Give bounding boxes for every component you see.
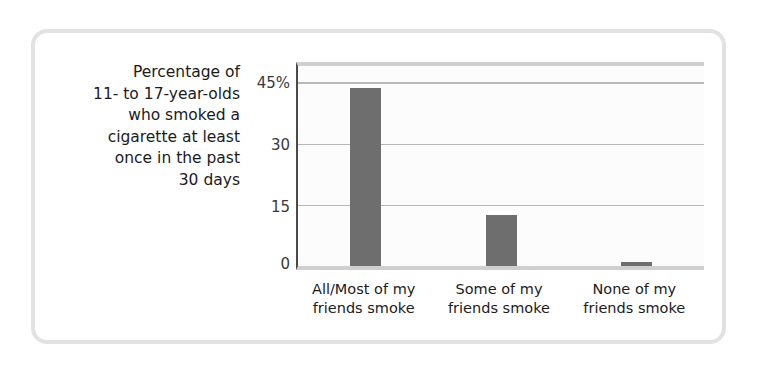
x-label-line: All/Most of my: [296, 280, 431, 299]
y-tick-label: 0: [230, 257, 290, 272]
x-label-line: friends smoke: [567, 299, 702, 318]
y-tick-label: 15: [230, 200, 290, 215]
plot-inner: [298, 66, 704, 266]
caption-line-1: Percentage of: [60, 62, 240, 84]
caption-line-5: once in the past: [60, 148, 240, 170]
gridline-45: [298, 82, 704, 84]
bar-some-friends-smoke: [486, 215, 517, 266]
plot-area: [296, 62, 704, 270]
x-label-some: Some of my friends smoke: [431, 280, 566, 318]
caption-line-2: 11- to 17-year-olds: [60, 84, 240, 106]
x-label-none: None of my friends smoke: [567, 280, 702, 318]
y-axis-tick-labels: 45% 30 15 0: [228, 62, 290, 270]
x-axis-category-labels: All/Most of my friends smoke Some of my …: [296, 280, 704, 330]
x-label-line: Some of my: [431, 280, 566, 299]
chart-caption: Percentage of 11- to 17-year-olds who sm…: [60, 62, 240, 191]
bar-all-most-friends-smoke: [350, 88, 381, 266]
x-label-line: friends smoke: [296, 299, 431, 318]
caption-line-4: cigarette at least: [60, 127, 240, 149]
caption-line-3: who smoked a: [60, 105, 240, 127]
x-label-line: friends smoke: [431, 299, 566, 318]
chart-figure: Percentage of 11- to 17-year-olds who sm…: [0, 0, 761, 370]
caption-line-6: 30 days: [60, 170, 240, 192]
x-label-line: None of my: [567, 280, 702, 299]
x-label-all-most: All/Most of my friends smoke: [296, 280, 431, 318]
bar-none-friends-smoke: [621, 262, 652, 266]
y-tick-label: 30: [230, 138, 290, 153]
y-tick-label: 45%: [230, 76, 290, 91]
